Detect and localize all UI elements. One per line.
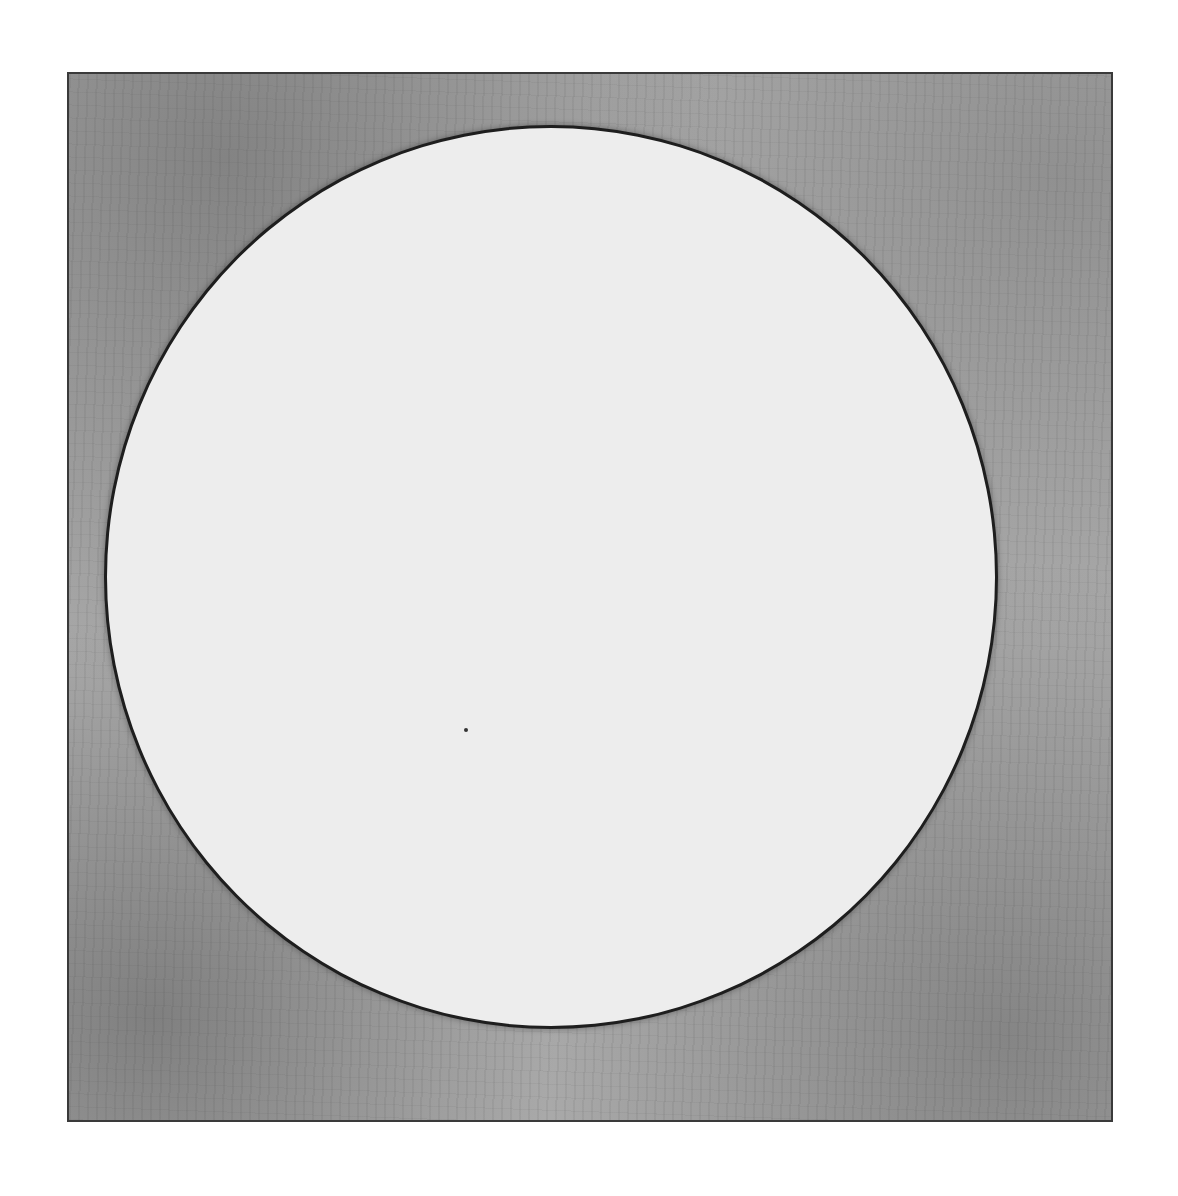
ink-speck — [464, 728, 468, 732]
white-circle — [104, 125, 998, 1029]
